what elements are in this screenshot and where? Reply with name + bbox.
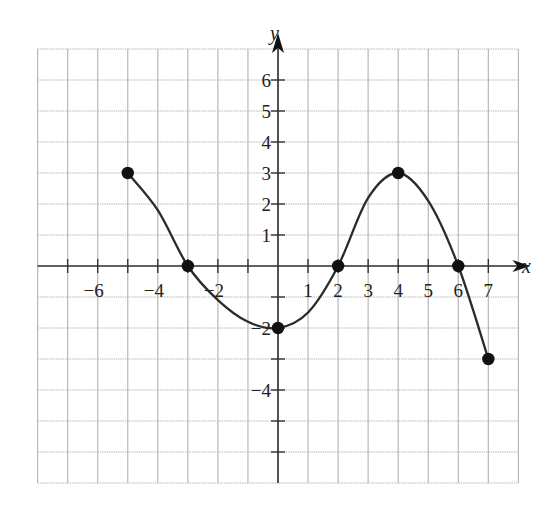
x-tick-label: 6 <box>454 280 464 301</box>
point-marker <box>122 167 134 179</box>
x-tick-label: 5 <box>424 280 434 301</box>
x-tick-label: −6 <box>84 280 104 301</box>
x-tick-label: −2 <box>204 280 224 301</box>
y-tick-label: 4 <box>262 132 272 153</box>
y-tick-label: 1 <box>262 225 272 246</box>
x-axis-label: x <box>521 255 531 277</box>
y-tick-label: −4 <box>251 380 272 401</box>
x-tick-label: 3 <box>363 280 373 301</box>
x-tick-label: 2 <box>333 280 343 301</box>
point-marker <box>272 322 284 334</box>
point-marker <box>452 260 464 272</box>
y-tick-label: 2 <box>262 194 272 215</box>
y-tick-label: 6 <box>262 70 272 91</box>
y-axis-label: y <box>268 22 279 45</box>
point-marker <box>332 260 344 272</box>
point-marker <box>392 167 404 179</box>
x-tick-label: −4 <box>144 280 165 301</box>
x-tick-label: 7 <box>484 280 494 301</box>
x-tick-label: 4 <box>393 280 403 301</box>
x-tick-labels: −6−4−21234567 <box>84 280 494 301</box>
y-tick-label: −2 <box>251 318 271 339</box>
y-tick-label: 3 <box>262 163 272 184</box>
point-marker <box>482 353 494 365</box>
function-graph: −6−4−21234567 654321−2−4 x y <box>0 0 559 510</box>
y-tick-label: 5 <box>262 101 272 122</box>
x-tick-label: 1 <box>303 280 313 301</box>
axes <box>38 33 531 483</box>
point-marker <box>182 260 194 272</box>
